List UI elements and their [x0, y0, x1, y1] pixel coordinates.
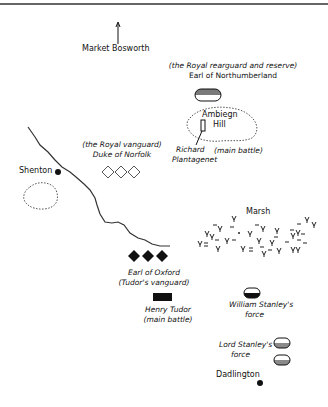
label-northumberland: Earl of Northumberland: [158, 71, 308, 81]
label-william-stanley-2: force: [245, 310, 264, 320]
marsh-symbols: [198, 216, 316, 257]
label-richard-2: Plantagenet: [172, 155, 217, 165]
henry-force-icon: [153, 293, 172, 301]
label-market-bosworth: Market Bosworth: [82, 44, 150, 54]
label-henry-role: (main battle): [118, 315, 218, 325]
label-william-stanley-1: William Stanley's: [229, 300, 293, 310]
label-lord-stanley-2: force: [231, 350, 250, 360]
label-marsh: Marsh: [246, 207, 270, 217]
william-stanley-force-icon: [244, 288, 260, 298]
label-dadlington: Dadlington: [216, 370, 260, 380]
label-oxford-role: (Tudor's vanguard): [104, 278, 204, 288]
label-oxford: Earl of Oxford: [104, 268, 204, 278]
norfolk-force-icon: [102, 166, 140, 178]
label-ambion-hill-2: Hill: [213, 120, 226, 130]
oxford-force-icon: [128, 250, 168, 262]
lord-stanley-force-icon: [274, 338, 290, 365]
dadlington-dot: [257, 380, 263, 386]
north-arrow-icon: [116, 22, 120, 44]
label-shenton: Shenton: [19, 166, 52, 176]
label-richard-1: Richard: [176, 145, 205, 155]
northumberland-force-icon: [195, 89, 221, 101]
richard-force-icon: [196, 120, 205, 145]
label-northumberland-role: (the Royal rearguard and reserve): [158, 61, 308, 71]
label-norfolk-role: (the Royal vanguard): [72, 140, 172, 150]
shenton-dot: [55, 169, 61, 175]
woods-outline: [24, 183, 58, 209]
label-henry: Henry Tudor: [118, 305, 218, 315]
label-ambion-hill-1: Ambiegn: [202, 110, 238, 120]
label-lord-stanley-1: Lord Stanley's: [219, 340, 272, 350]
label-norfolk: Duke of Norfolk: [72, 150, 172, 160]
label-richard-note: (main battle): [214, 146, 263, 156]
